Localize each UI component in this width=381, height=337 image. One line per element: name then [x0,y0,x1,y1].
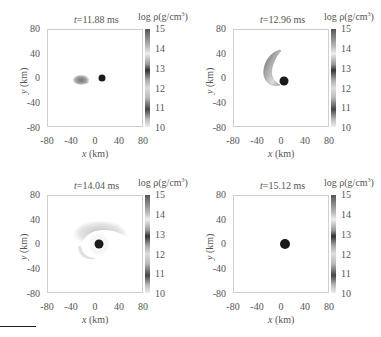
y-tick: 40 [18,48,40,59]
panel-3: t=14.04 ms log ρ(g/cm3) 15 14 13 12 11 1… [0,166,190,332]
colorbar-tick: 14 [155,209,165,220]
panel-title: t=12.96 ms [260,14,305,25]
colorbar-tick: 11 [341,102,351,113]
y-tick: 80 [18,189,40,200]
colorbar-tick: 14 [155,43,165,54]
plot-area [47,195,143,293]
x-axis-label: x (km) [82,148,108,159]
panel-1: t=11.88 ms log ρ(g/cm3) 15 14 13 12 11 1… [0,0,190,166]
footnote-rule [0,326,36,327]
colorbar-tick: 10 [155,122,165,133]
x-tick: 40 [293,301,317,312]
x-axis-label: x (km) [268,314,294,325]
x-tick: 0 [269,135,293,146]
x-tick: -80 [35,135,59,146]
colorbar-label: log ρ(g/cm3) [324,11,374,22]
x-tick: 40 [293,135,317,146]
x-tick: 80 [317,301,341,312]
colorbar-tick: 11 [341,268,351,279]
y-tick: -40 [18,263,40,274]
colorbar-tick: 14 [341,43,351,54]
panel-4: t=15.12 ms log ρ(g/cm3) 15 14 13 12 11 1… [186,166,376,332]
x-tick: -40 [59,301,83,312]
x-tick: -40 [245,301,269,312]
x-tick: 0 [269,301,293,312]
panel-title: t=11.88 ms [74,14,119,25]
colorbar [145,195,150,293]
y-tick: -40 [18,97,40,108]
y-tick: 40 [204,48,226,59]
plot-area [47,29,143,127]
x-tick: -80 [221,301,245,312]
y-tick: 40 [204,214,226,225]
colorbar-tick: 15 [155,23,165,34]
y-axis-label: y (km) [204,68,215,94]
colorbar-tick: 10 [341,122,351,133]
colorbar-tick: 15 [155,189,165,200]
x-tick: -80 [35,301,59,312]
x-tick: 40 [107,301,131,312]
x-tick: 40 [107,135,131,146]
density-map [48,196,144,294]
x-tick: 0 [83,135,107,146]
panel-title: t=15.12 ms [260,180,305,191]
y-tick: 40 [18,214,40,225]
colorbar-tick: 10 [341,288,351,299]
colorbar-tick: 11 [155,102,165,113]
colorbar-label: log ρ(g/cm3) [324,177,374,188]
colorbar-label: log ρ(g/cm3) [138,11,188,22]
colorbar-tick: 13 [155,229,165,240]
colorbar-tick: 12 [155,83,165,94]
x-tick: -40 [59,135,83,146]
x-tick: 0 [83,301,107,312]
y-axis-label: y (km) [204,234,215,260]
x-tick: -40 [245,135,269,146]
y-axis-label: y (km) [18,234,29,260]
colorbar-tick: 13 [155,63,165,74]
x-tick: -80 [221,135,245,146]
colorbar-tick: 11 [155,268,165,279]
panel-2: t=12.96 ms log ρ(g/cm3) 15 14 13 12 11 1… [186,0,376,166]
colorbar-tick: 12 [341,249,351,260]
x-tick: 80 [131,301,155,312]
plot-area [233,29,329,127]
colorbar-tick: 13 [341,229,351,240]
colorbar [145,29,150,127]
y-tick: -80 [18,122,40,133]
plot-area [233,195,329,293]
y-axis-label: y (km) [18,68,29,94]
y-tick: -80 [204,122,226,133]
colorbar [331,29,336,127]
colorbar [331,195,336,293]
density-map [234,30,330,128]
colorbar-tick: 15 [341,189,351,200]
panel-title: t=14.04 ms [74,180,119,191]
y-tick: -40 [204,97,226,108]
colorbar-tick: 10 [155,288,165,299]
y-tick: -80 [18,288,40,299]
y-tick: 80 [204,189,226,200]
x-tick: 80 [131,135,155,146]
x-axis-label: x (km) [268,148,294,159]
colorbar-label: log ρ(g/cm3) [138,177,188,188]
colorbar-tick: 14 [341,209,351,220]
colorbar-tick: 15 [341,23,351,34]
colorbar-tick: 13 [341,63,351,74]
y-tick: 80 [204,23,226,34]
colorbar-tick: 12 [155,249,165,260]
y-tick: -80 [204,288,226,299]
y-tick: 80 [18,23,40,34]
x-axis-label: x (km) [82,314,108,325]
y-tick: -40 [204,263,226,274]
x-tick: 80 [317,135,341,146]
density-map [234,196,330,294]
colorbar-tick: 12 [341,83,351,94]
density-map [48,30,144,128]
